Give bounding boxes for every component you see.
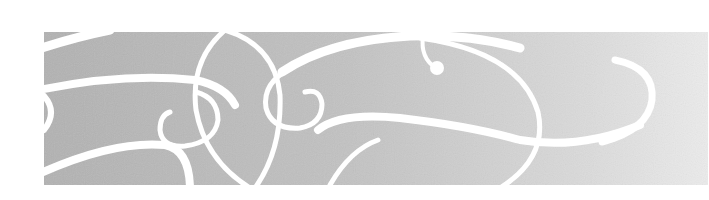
gray-band — [44, 32, 708, 185]
decorative-swirl-banner — [0, 0, 709, 200]
swirl-dot — [430, 61, 444, 75]
swirl-ornament-graphic — [0, 0, 709, 200]
